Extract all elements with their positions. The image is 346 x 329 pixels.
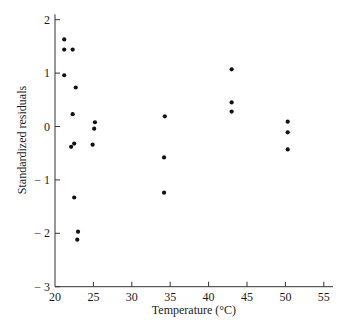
y-tick-label: 0 xyxy=(44,120,50,134)
data-point xyxy=(230,100,234,104)
data-point xyxy=(62,37,66,41)
data-point xyxy=(162,155,166,159)
y-tick-label: − 3 xyxy=(34,280,50,294)
data-point xyxy=(69,145,73,149)
data-point xyxy=(91,143,95,147)
data-point xyxy=(71,112,75,116)
y-tick-label: − 1 xyxy=(34,173,50,187)
data-point xyxy=(93,120,97,124)
data-point xyxy=(75,238,79,242)
y-tick-label: 1 xyxy=(44,66,50,80)
data-point xyxy=(71,48,75,52)
data-point xyxy=(62,48,66,52)
data-point xyxy=(286,130,290,134)
y-axis-ticks: − 3− 2− 1012 xyxy=(34,13,60,294)
data-point xyxy=(76,230,80,234)
y-tick-label: − 2 xyxy=(34,226,50,240)
y-axis-label: Standardized residuals xyxy=(15,86,29,195)
x-tick-label: 30 xyxy=(126,290,138,304)
x-tick-label: 40 xyxy=(203,290,215,304)
x-tick-label: 50 xyxy=(279,290,291,304)
data-point xyxy=(286,147,290,151)
data-points xyxy=(62,37,290,241)
axes: − 3− 2− 1012 2025303540455055 xyxy=(34,13,333,304)
x-tick-label: 25 xyxy=(87,290,99,304)
x-tick-label: 55 xyxy=(318,290,330,304)
data-point xyxy=(72,195,76,199)
scatter-chart: − 3− 2− 1012 2025303540455055 Temperatur… xyxy=(0,0,346,329)
x-axis-ticks: 2025303540455055 xyxy=(49,282,330,304)
data-point xyxy=(72,141,76,145)
data-point xyxy=(230,67,234,71)
y-tick-label: 2 xyxy=(44,13,50,27)
data-point xyxy=(286,120,290,124)
x-tick-label: 35 xyxy=(164,290,176,304)
x-tick-label: 20 xyxy=(49,290,61,304)
data-point xyxy=(74,85,78,89)
data-point xyxy=(62,73,66,77)
x-axis-label: Temperature (°C) xyxy=(152,303,236,317)
data-point xyxy=(230,109,234,113)
x-tick-label: 45 xyxy=(241,290,253,304)
data-point xyxy=(162,191,166,195)
data-point xyxy=(163,114,167,118)
data-point xyxy=(92,127,96,131)
